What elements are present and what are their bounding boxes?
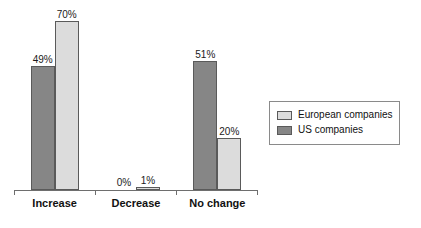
bar-no-change-european-companies[interactable]: 20% <box>217 138 241 190</box>
axis-tick-1 <box>95 190 96 195</box>
category-labels: Increase Decrease No change <box>14 196 258 212</box>
bar-group-increase: 49% 70% <box>14 0 95 190</box>
axis-tick-end <box>257 190 258 195</box>
bar-increase-us-companies[interactable]: 49% <box>31 66 55 190</box>
bar-slot-decrease-eu: 1% <box>136 0 160 190</box>
legend-item-european-companies[interactable]: European companies <box>277 108 392 122</box>
bar-increase-european-companies[interactable]: 70% <box>55 21 79 190</box>
chart-page: 49% 70% 0% 1% <box>0 0 421 228</box>
bar-no-change-us-companies[interactable]: 51% <box>193 61 217 190</box>
bar-slot-increase-eu: 70% <box>55 0 79 190</box>
category-label-decrease: Decrease <box>95 196 176 212</box>
bar-value-label: 70% <box>57 9 77 20</box>
axis-tick-start <box>14 190 15 195</box>
bar-value-label: 20% <box>219 126 239 137</box>
axis-tick-2 <box>176 190 177 195</box>
bar-value-label: 0% <box>117 177 131 188</box>
bar-value-label: 49% <box>33 54 53 65</box>
chart-legend: European companies US companies <box>269 101 400 145</box>
category-label-increase: Increase <box>14 196 95 212</box>
legend-swatch-icon <box>277 126 292 135</box>
bar-slot-increase-us: 49% <box>31 0 55 190</box>
legend-item-label: US companies <box>298 124 363 136</box>
legend-item-label: European companies <box>298 109 393 121</box>
bar-groups: 49% 70% 0% 1% <box>14 0 258 190</box>
category-label-no-change: No change <box>177 196 258 212</box>
legend-item-us-companies[interactable]: US companies <box>277 123 392 137</box>
bar-group-no-change: 51% 20% <box>177 0 258 190</box>
plot-area: 49% 70% 0% 1% <box>14 0 258 191</box>
bar-group-decrease: 0% 1% <box>95 0 176 190</box>
legend-swatch-icon <box>277 111 292 120</box>
bar-slot-no-change-eu: 20% <box>217 0 241 190</box>
x-axis-baseline <box>14 190 258 191</box>
bar-slot-decrease-us: 0% <box>112 0 136 190</box>
bar-slot-no-change-us: 51% <box>193 0 217 190</box>
bar-value-label: 1% <box>141 175 155 186</box>
bar-value-label: 51% <box>195 49 215 60</box>
